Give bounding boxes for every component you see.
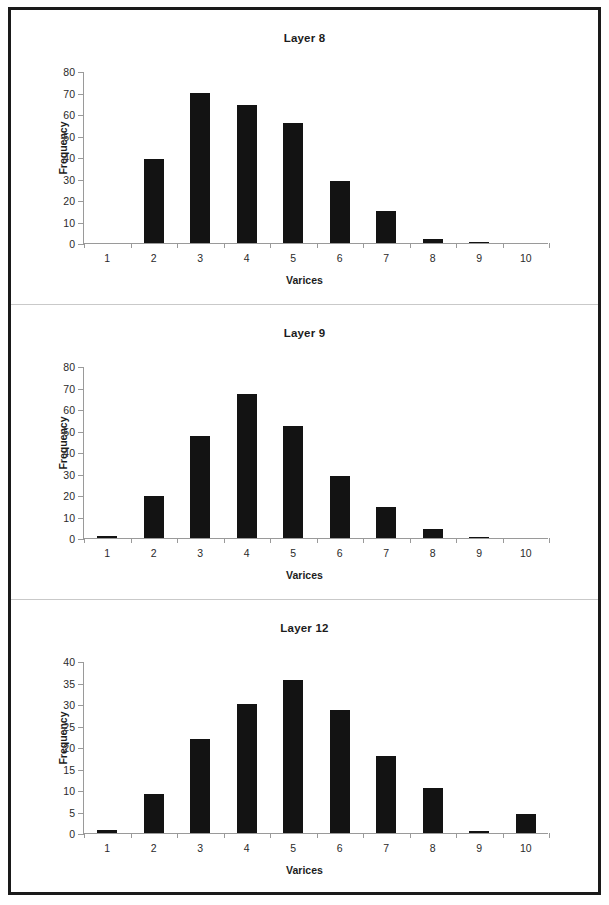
x-tick-mark [224, 538, 225, 543]
x-axis-title: Varices [11, 864, 598, 876]
bar [330, 181, 350, 243]
x-tick-label: 5 [290, 547, 296, 559]
x-tick-label: 5 [290, 252, 296, 264]
y-tick-label: 0 [69, 828, 75, 840]
y-tick-mark [78, 748, 84, 749]
x-tick-mark [549, 833, 550, 838]
y-tick-mark [78, 389, 84, 390]
figure-inner: Layer 8 Frequency 0102030405060708012345… [11, 10, 598, 892]
x-tick-mark [503, 833, 504, 838]
y-tick-label: 0 [69, 238, 75, 250]
y-tick-mark [78, 115, 84, 116]
y-tick-label: 10 [63, 217, 75, 229]
y-axis-title: Frequency [57, 678, 69, 798]
y-tick-label: 35 [63, 678, 75, 690]
x-tick-label: 10 [520, 547, 532, 559]
y-tick-mark [78, 367, 84, 368]
x-tick-mark [224, 243, 225, 248]
x-tick-label: 6 [337, 547, 343, 559]
x-tick-mark [177, 243, 178, 248]
x-tick-label: 8 [430, 842, 436, 854]
x-tick-label: 8 [430, 547, 436, 559]
chart-title: Layer 8 [11, 32, 598, 44]
y-tick-mark [78, 158, 84, 159]
x-axis-title: Varices [11, 274, 598, 286]
bar [190, 739, 210, 833]
y-tick-label: 15 [63, 764, 75, 776]
bar [423, 788, 443, 833]
y-tick-mark [78, 201, 84, 202]
bar [190, 93, 210, 244]
y-tick-mark [78, 475, 84, 476]
y-tick-mark [78, 137, 84, 138]
chart-panel-layer-12: Layer 12 Frequency 051015202530354012345… [11, 600, 598, 892]
x-tick-label: 9 [476, 842, 482, 854]
x-tick-label: 10 [520, 842, 532, 854]
y-tick-label: 60 [63, 109, 75, 121]
y-tick-mark [78, 662, 84, 663]
bar [144, 159, 164, 243]
x-tick-label: 2 [151, 547, 157, 559]
y-tick-label: 40 [63, 447, 75, 459]
x-tick-mark [456, 833, 457, 838]
y-tick-label: 70 [63, 88, 75, 100]
x-tick-mark [410, 538, 411, 543]
bar [516, 814, 536, 833]
x-tick-mark [177, 538, 178, 543]
bar [190, 436, 210, 538]
y-tick-mark [78, 432, 84, 433]
x-tick-mark [84, 833, 85, 838]
bar [330, 710, 350, 833]
x-tick-mark [317, 833, 318, 838]
plot-area: 0102030405060708012345678910 [83, 72, 548, 244]
x-tick-mark [456, 243, 457, 248]
y-tick-mark [78, 684, 84, 685]
x-tick-label: 5 [290, 842, 296, 854]
x-tick-label: 4 [244, 547, 250, 559]
x-tick-label: 3 [197, 842, 203, 854]
y-tick-label: 50 [63, 426, 75, 438]
y-tick-mark [78, 518, 84, 519]
chart-panel-layer-8: Layer 8 Frequency 0102030405060708012345… [11, 10, 598, 305]
x-tick-mark [456, 538, 457, 543]
y-tick-label: 5 [69, 807, 75, 819]
x-tick-mark [270, 538, 271, 543]
y-tick-label: 25 [63, 721, 75, 733]
x-tick-label: 8 [430, 252, 436, 264]
x-tick-mark [131, 538, 132, 543]
bar [97, 830, 117, 833]
y-tick-label: 40 [63, 152, 75, 164]
x-tick-label: 7 [383, 842, 389, 854]
y-tick-mark [78, 496, 84, 497]
x-tick-mark [363, 243, 364, 248]
y-tick-label: 20 [63, 195, 75, 207]
y-tick-label: 30 [63, 174, 75, 186]
x-tick-label: 9 [476, 252, 482, 264]
y-tick-mark [78, 72, 84, 73]
y-tick-mark [78, 705, 84, 706]
bar [283, 123, 303, 243]
bar [237, 704, 257, 833]
y-tick-mark [78, 223, 84, 224]
y-tick-label: 40 [63, 656, 75, 668]
x-tick-mark [503, 243, 504, 248]
y-tick-mark [78, 410, 84, 411]
bar [283, 680, 303, 834]
y-tick-mark [78, 453, 84, 454]
y-axis-title: Frequency [57, 88, 69, 208]
chart-title: Layer 12 [11, 622, 598, 634]
x-tick-label: 1 [104, 842, 110, 854]
x-tick-mark [270, 833, 271, 838]
x-tick-mark [317, 538, 318, 543]
y-tick-label: 0 [69, 533, 75, 545]
y-tick-label: 30 [63, 699, 75, 711]
y-tick-mark [78, 770, 84, 771]
y-tick-label: 20 [63, 742, 75, 754]
x-tick-mark [84, 538, 85, 543]
x-tick-label: 9 [476, 547, 482, 559]
x-axis-title: Varices [11, 569, 598, 581]
bar [283, 426, 303, 538]
x-tick-label: 1 [104, 547, 110, 559]
x-tick-label: 6 [337, 842, 343, 854]
y-tick-label: 10 [63, 785, 75, 797]
